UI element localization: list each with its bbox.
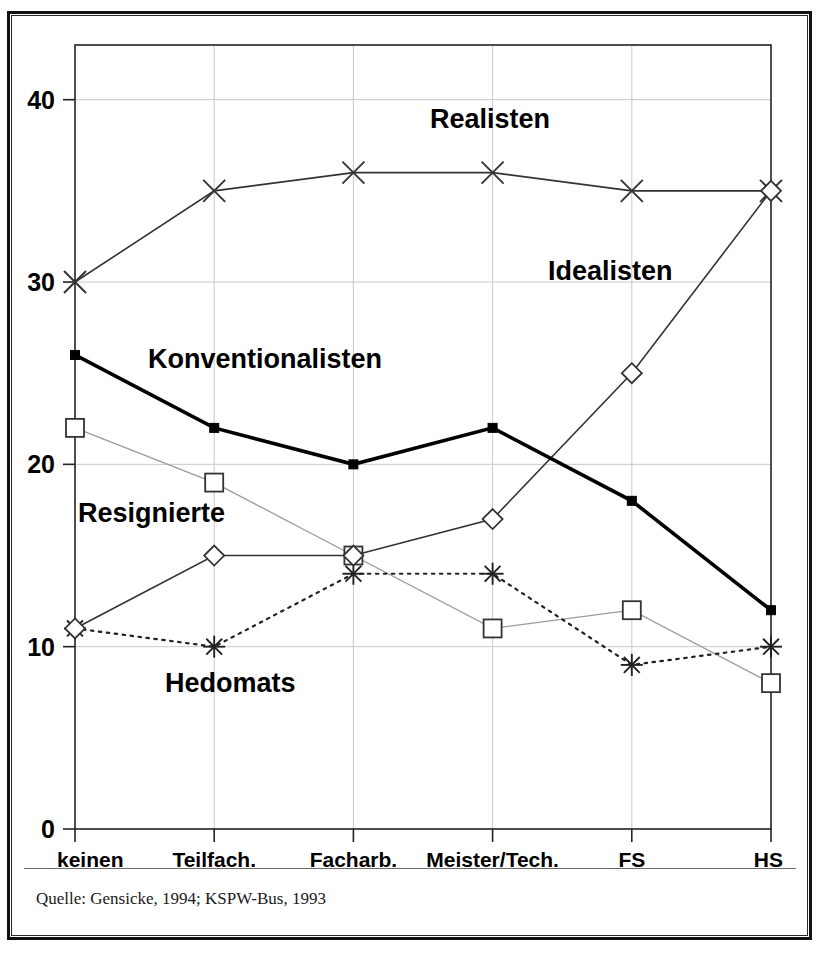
data-point-marker: [66, 419, 84, 437]
data-point-marker: [623, 601, 641, 619]
y-tick-label: 40: [27, 86, 55, 114]
grid-lines: [75, 45, 771, 829]
data-point-marker: [484, 619, 502, 637]
series-line: [75, 428, 771, 683]
y-tick-label: 20: [27, 450, 55, 478]
data-point-marker: [627, 496, 636, 505]
series-label-konventionalisten: Konventionalisten: [148, 344, 382, 374]
x-axis-ticks: keinenTeilfach.Facharb.Meister/Tech.FSHS: [57, 829, 783, 871]
chart-page: 010203040 keinenTeilfach.Facharb.Meister…: [0, 0, 825, 957]
y-axis-ticks: 010203040: [27, 86, 75, 843]
data-point-marker: [767, 606, 776, 615]
y-tick-label: 30: [27, 268, 55, 296]
series-resignierte: [66, 419, 780, 692]
series-label-idealisten: Idealisten: [548, 256, 673, 286]
data-point-marker: [621, 654, 643, 676]
data-point-marker: [71, 350, 80, 359]
data-point-marker: [204, 546, 224, 566]
axes: [75, 45, 771, 829]
y-tick-label: 10: [27, 633, 55, 661]
data-point-marker: [203, 636, 225, 658]
line-chart: 010203040 keinenTeilfach.Facharb.Meister…: [0, 0, 825, 957]
series-annotations: RealistenIdealistenKonventionalistenResi…: [78, 104, 673, 698]
data-point-marker: [349, 460, 358, 469]
data-point-marker: [760, 636, 782, 658]
source-separator: [24, 868, 796, 869]
data-point-marker: [210, 423, 219, 432]
data-point-marker: [762, 674, 780, 692]
y-tick-label: 0: [41, 815, 55, 843]
series-label-realisten: Realisten: [430, 104, 550, 134]
series-realisten: [64, 162, 782, 293]
data-series-group: [64, 162, 782, 693]
data-point-marker: [488, 423, 497, 432]
series-line: [75, 574, 771, 665]
data-point-marker: [205, 474, 223, 492]
series-line: [75, 355, 771, 610]
series-hedomats: [64, 563, 782, 676]
data-point-marker: [482, 563, 504, 585]
source-note: Quelle: Gensicke, 1994; KSPW-Bus, 1993: [36, 889, 326, 909]
chart-svg: 010203040 keinenTeilfach.Facharb.Meister…: [0, 0, 825, 957]
series-label-hedomats: Hedomats: [165, 668, 296, 698]
series-label-resignierte: Resignierte: [78, 498, 225, 528]
series-idealisten: [65, 181, 781, 639]
